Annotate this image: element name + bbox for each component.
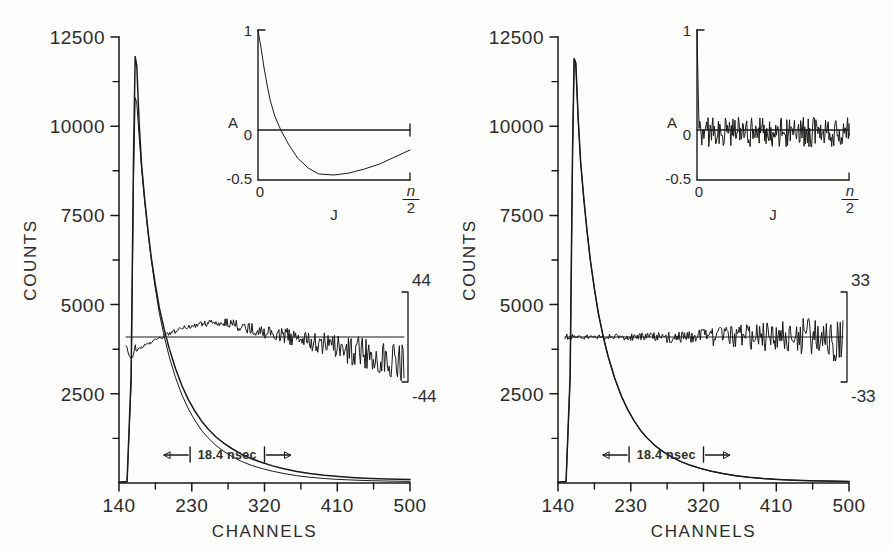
panel-left-xtick-label-230: 230 bbox=[175, 495, 208, 516]
panel-left-inset-xlabel-2: 2 bbox=[407, 199, 415, 216]
panel-right-inset-xlabel-n: n bbox=[846, 182, 854, 199]
panel-right-width-label: 18.4 nsec bbox=[637, 448, 696, 462]
panel-left-ylabel: COUNTS bbox=[21, 219, 40, 300]
panel-right-residual-top-label: 33 bbox=[851, 271, 870, 290]
panel-left-inset-ylabel-0: 0 bbox=[244, 126, 252, 143]
panel-right-xtick-label-230: 230 bbox=[614, 495, 647, 516]
panel-right-inset-ylabel-1: 1 bbox=[683, 22, 691, 39]
panel-left-ytick-label-7500: 7500 bbox=[61, 205, 105, 226]
panel-left-ytick-label-5000: 5000 bbox=[61, 295, 105, 316]
panel-left-xtick-label-410: 410 bbox=[321, 495, 354, 516]
panel-right-inset-xlabel-0: 0 bbox=[695, 183, 703, 200]
panel-right-xlabel: CHANNELS bbox=[651, 522, 756, 541]
panel-right-inset-ylabel-0: 0 bbox=[683, 126, 691, 143]
panel-left-inset-autocorrelation-trace bbox=[258, 30, 410, 175]
panel-left-xtick-label-320: 320 bbox=[248, 495, 281, 516]
panel-left-curve-single-exponential-fit bbox=[119, 98, 410, 483]
panel-right-inset-xaxis-label-J: J bbox=[769, 206, 777, 223]
panel-left-inset-xlabel-0: 0 bbox=[256, 183, 264, 200]
panel-left-ytick-label-2500: 2500 bbox=[61, 384, 105, 405]
panel-left-residual-bottom-label: -44 bbox=[412, 387, 437, 406]
panel-left-ytick-label-10000: 10000 bbox=[50, 116, 105, 137]
panel-left-axis-spine bbox=[119, 37, 410, 483]
panel-left-curve-measured-decay bbox=[119, 57, 410, 483]
figure-root: 1250010000750050002500140230320410500COU… bbox=[0, 0, 892, 549]
panel-left-inset-xaxis-label-J: J bbox=[330, 206, 338, 223]
panel-right-ytick-label-10000: 10000 bbox=[489, 116, 544, 137]
panel-right-residual-trace bbox=[565, 318, 843, 361]
panel-right-curve-double-exponential-fit bbox=[558, 59, 849, 482]
panel-right-residual-bottom-label: -33 bbox=[851, 387, 876, 406]
panel-left-inset-axis-label-A: A bbox=[228, 114, 238, 131]
panel-right-inset-axis-label-A: A bbox=[667, 114, 677, 131]
panel-right-xtick-label-500: 500 bbox=[832, 495, 865, 516]
panel-right-xtick-label-140: 140 bbox=[541, 495, 574, 516]
panel-right-ylabel: COUNTS bbox=[460, 219, 479, 300]
panel-left-xtick-label-500: 500 bbox=[393, 495, 426, 516]
panel-left-inset-ylabel-neg: -0.5 bbox=[226, 170, 252, 187]
figure-canvas: 1250010000750050002500140230320410500COU… bbox=[0, 0, 892, 549]
panel-right-inset-ylabel-neg: -0.5 bbox=[665, 170, 691, 187]
panel-left-residual-top-label: 44 bbox=[412, 271, 431, 290]
panel-right-ytick-label-7500: 7500 bbox=[500, 205, 544, 226]
panel-left-inset-ylabel-1: 1 bbox=[244, 22, 252, 39]
panel-left-width-label: 18.4 nsec bbox=[198, 448, 257, 462]
panel-right-inset-xlabel-2: 2 bbox=[846, 199, 854, 216]
panel-right-ytick-label-2500: 2500 bbox=[500, 384, 544, 405]
panel-left-xlabel: CHANNELS bbox=[212, 522, 317, 541]
panel-left-ytick-label-12500: 12500 bbox=[50, 27, 105, 48]
panel-right-xtick-label-320: 320 bbox=[687, 495, 720, 516]
panel-right-axis-spine bbox=[558, 37, 849, 483]
panel-right-curve-measured-decay bbox=[558, 58, 849, 482]
panel-left-xtick-label-140: 140 bbox=[102, 495, 135, 516]
panel-right-ytick-label-12500: 12500 bbox=[489, 27, 544, 48]
panel-right-xtick-label-410: 410 bbox=[760, 495, 793, 516]
panel-right-ytick-label-5000: 5000 bbox=[500, 295, 544, 316]
panel-left-inset-xlabel-n: n bbox=[407, 182, 415, 199]
